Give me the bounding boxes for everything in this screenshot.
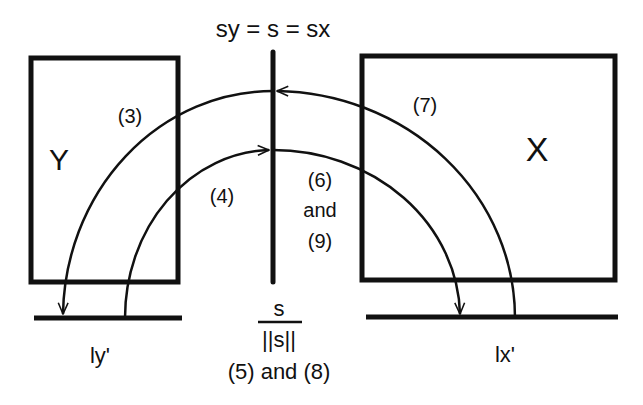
center-caption: (5) and (8) bbox=[228, 359, 331, 384]
inner-arc-left bbox=[125, 150, 269, 318]
label-4: (4) bbox=[210, 185, 234, 207]
fraction-denominator: ||s|| bbox=[262, 327, 296, 352]
box-x-label: X bbox=[526, 130, 549, 168]
label-3: (3) bbox=[118, 105, 142, 127]
inner-arc-right bbox=[273, 150, 460, 314]
box-x bbox=[362, 56, 615, 280]
label-6: (6) bbox=[308, 169, 332, 191]
baseline-left-label: ly' bbox=[90, 343, 110, 368]
diagram-canvas: sy = s = sx Y X (3) (7) (4) (6) and (9) … bbox=[0, 0, 643, 405]
label-and: and bbox=[303, 199, 336, 221]
label-9: (9) bbox=[308, 230, 332, 252]
label-7: (7) bbox=[413, 94, 437, 116]
title-equation: sy = s = sx bbox=[216, 15, 331, 42]
fraction-numerator: s bbox=[274, 296, 285, 321]
box-y-label: Y bbox=[49, 143, 69, 176]
baseline-right-label: lx' bbox=[495, 342, 515, 367]
